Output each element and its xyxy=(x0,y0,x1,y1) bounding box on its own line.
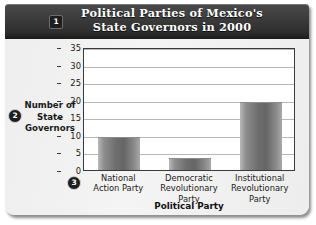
callout-badge-3: 3 xyxy=(67,176,81,190)
y-tick-25: 25 xyxy=(61,78,81,88)
y-tickmark-15 xyxy=(57,118,61,119)
x-tick-label-1: Democratic Revolutionary Party xyxy=(154,173,225,204)
plot-area xyxy=(83,48,295,171)
y-tick-20: 20 xyxy=(61,96,81,106)
chart-title-bar: 1 Political Parties of Mexico's State Go… xyxy=(5,4,309,39)
y-tick-35: 35 xyxy=(61,43,81,53)
bar-1 xyxy=(169,158,211,170)
y-tick-10: 10 xyxy=(61,131,81,141)
x-tick-label-2: Institutional Revolutionary Party xyxy=(224,173,295,204)
y-tick-15: 15 xyxy=(61,113,81,123)
y-tickmark-30 xyxy=(57,66,61,67)
chart-figure: 1 Political Parties of Mexico's State Go… xyxy=(5,4,309,215)
y-tick-5: 5 xyxy=(61,148,81,158)
y-tick-30: 30 xyxy=(61,61,81,71)
y-tickmark-25 xyxy=(57,83,61,84)
y-tickmark-0 xyxy=(57,171,61,172)
y-tick-0: 0 xyxy=(61,166,81,176)
plot-area-wrapper: 05101520253035 xyxy=(83,48,295,171)
bar-0 xyxy=(98,137,140,170)
y-tickmark-20 xyxy=(57,101,61,102)
y-tickmark-10 xyxy=(57,136,61,137)
y-axis-tick-labels: 05101520253035 xyxy=(61,43,81,176)
chart-title: Political Parties of Mexico's State Gove… xyxy=(53,7,291,34)
x-tick-label-0: National Action Party xyxy=(83,173,154,194)
bar-series xyxy=(84,49,294,170)
x-axis-label: Political Party xyxy=(83,201,295,211)
bar-2 xyxy=(240,102,282,170)
y-tickmark-5 xyxy=(57,153,61,154)
y-tickmark-35 xyxy=(57,48,61,49)
